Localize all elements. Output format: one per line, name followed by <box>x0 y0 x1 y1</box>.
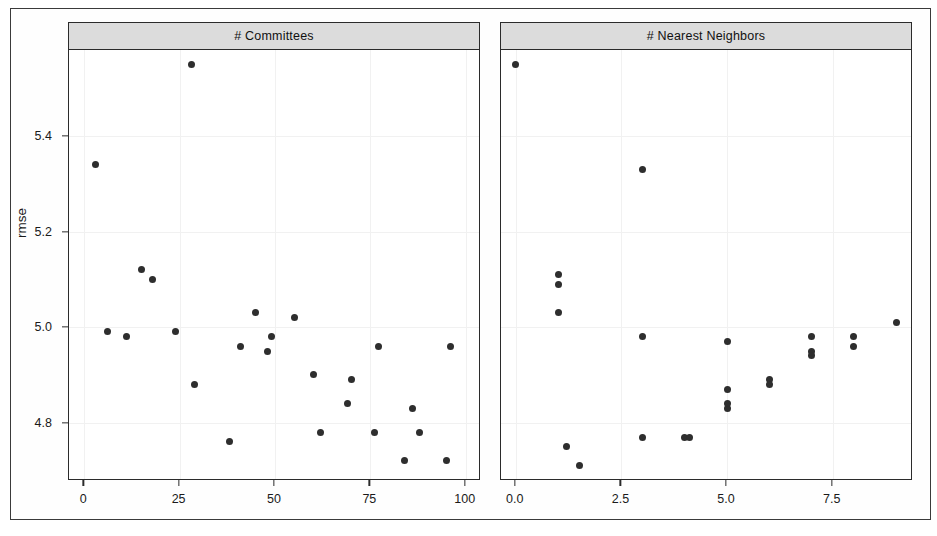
data-point <box>191 381 198 388</box>
data-point <box>264 348 271 355</box>
data-point <box>226 438 233 445</box>
y-tick-label: 4.8 <box>35 416 52 430</box>
grid-line-vertical <box>275 50 276 479</box>
data-point <box>149 276 156 283</box>
x-tick-label: 5.0 <box>717 492 734 506</box>
data-point <box>188 61 195 68</box>
data-point <box>317 429 324 436</box>
data-point <box>291 314 298 321</box>
data-point <box>808 333 815 340</box>
data-point <box>724 338 731 345</box>
grid-line-vertical <box>180 50 181 479</box>
data-point <box>348 376 355 383</box>
x-tick-mark <box>369 480 370 486</box>
x-tick-mark <box>831 480 832 486</box>
x-tick-label: 50 <box>267 492 281 506</box>
panel-strip-committees: # Committees <box>68 22 480 50</box>
plot-area-nearest-neighbors <box>500 50 912 480</box>
data-point <box>724 400 731 407</box>
y-tick-label: 5.2 <box>35 225 52 239</box>
x-tick-mark <box>620 480 621 486</box>
grid-line-horizontal <box>501 327 911 328</box>
grid-line-vertical <box>370 50 371 479</box>
panel-committees: # Committees <box>68 22 480 480</box>
data-point <box>512 61 519 68</box>
x-tick-mark <box>514 480 515 486</box>
y-axis: 5.45.25.04.8 <box>0 0 74 536</box>
data-point <box>808 352 815 359</box>
data-point <box>375 343 382 350</box>
x-tick-label: 7.5 <box>823 492 840 506</box>
data-point <box>401 457 408 464</box>
grid-line-vertical <box>84 50 85 479</box>
data-point <box>371 429 378 436</box>
data-point <box>138 266 145 273</box>
grid-line-horizontal <box>69 232 479 233</box>
data-point <box>555 271 562 278</box>
grid-line-horizontal <box>501 136 911 137</box>
x-tick-label: 2.5 <box>612 492 629 506</box>
data-point <box>252 309 259 316</box>
data-point <box>555 309 562 316</box>
x-tick-label: 25 <box>172 492 186 506</box>
grid-line-horizontal <box>501 232 911 233</box>
data-point <box>893 319 900 326</box>
x-tick-mark <box>464 480 465 486</box>
grid-line-vertical <box>833 50 834 479</box>
x-tick-label: 75 <box>362 492 376 506</box>
plot-area-committees <box>68 50 480 480</box>
data-point <box>237 343 244 350</box>
data-point <box>555 281 562 288</box>
grid-line-horizontal <box>69 136 479 137</box>
data-point <box>104 328 111 335</box>
data-point <box>686 434 693 441</box>
grid-line-vertical <box>466 50 467 479</box>
grid-line-vertical <box>516 50 517 479</box>
data-point <box>563 443 570 450</box>
grid-line-vertical <box>727 50 728 479</box>
data-point <box>766 381 773 388</box>
data-point <box>268 333 275 340</box>
x-tick-mark <box>725 480 726 486</box>
x-tick-mark <box>273 480 274 486</box>
data-point <box>639 434 646 441</box>
grid-line-horizontal <box>69 327 479 328</box>
x-tick-mark <box>178 480 179 486</box>
y-tick-label: 5.4 <box>35 129 52 143</box>
data-point <box>310 371 317 378</box>
data-point <box>123 333 130 340</box>
panel-strip-nearest-neighbors: # Nearest Neighbors <box>500 22 912 50</box>
x-tick-label: 0.0 <box>506 492 523 506</box>
panel-strip-label: # Committees <box>234 29 314 43</box>
panel-nearest-neighbors: # Nearest Neighbors <box>500 22 912 480</box>
y-tick-label: 5.0 <box>35 320 52 334</box>
data-point <box>639 166 646 173</box>
x-tick-label: 0 <box>80 492 87 506</box>
data-point <box>409 405 416 412</box>
x-axis-committees: 0255075100 <box>68 480 480 500</box>
grid-line-vertical <box>621 50 622 479</box>
grid-line-horizontal <box>501 423 911 424</box>
data-point <box>850 333 857 340</box>
data-point <box>443 457 450 464</box>
data-point <box>850 343 857 350</box>
data-point <box>576 462 583 469</box>
trellis-scatter-figure: rmse 5.45.25.04.8 # Committees 025507510… <box>0 0 937 536</box>
panel-strip-label: # Nearest Neighbors <box>647 29 765 43</box>
data-point <box>724 386 731 393</box>
data-point <box>344 400 351 407</box>
x-tick-mark <box>83 480 84 486</box>
x-axis-nearest-neighbors: 0.02.55.07.5 <box>500 480 912 500</box>
x-tick-label: 100 <box>454 492 475 506</box>
data-point <box>92 161 99 168</box>
grid-line-horizontal <box>69 423 479 424</box>
data-point <box>172 328 179 335</box>
data-point <box>447 343 454 350</box>
data-point <box>416 429 423 436</box>
data-point <box>639 333 646 340</box>
